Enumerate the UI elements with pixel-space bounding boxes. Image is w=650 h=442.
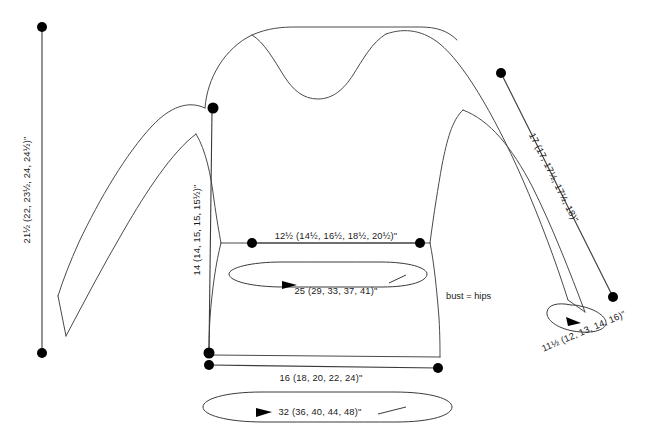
bust-circumference-measurement: 25 (29, 33, 37, 41)" xyxy=(229,262,427,296)
right-sleeve-top-edge xyxy=(386,31,568,300)
sleeve-length-bottom-dot xyxy=(608,292,618,302)
garment-schematic-canvas: 21½ (22, 23½, 24, 24½)" 14 (14, 15, 15, … xyxy=(0,0,650,442)
left-sleeve-cuff-edge xyxy=(58,296,66,336)
hem-width-line xyxy=(209,365,438,368)
hem-circumference-measurement: 32 (36, 40, 44, 48)" xyxy=(203,392,452,422)
hem-width-measurement: 16 (18, 20, 22, 24)" xyxy=(204,360,443,383)
body-length-top-dot xyxy=(208,103,219,114)
body-length-measurement: 14 (14, 15, 15, 15½)" xyxy=(192,103,219,359)
bust-width-label: 12½ (14½, 16½, 18½, 20½)" xyxy=(275,231,398,241)
total-length-bottom-dot xyxy=(37,348,47,358)
hem-width-right-dot xyxy=(433,363,443,373)
bust-equals-hips-note: bust = hips xyxy=(446,291,492,301)
bust-width-measurement: 12½ (14½, 16½, 18½, 20½)" xyxy=(247,231,425,248)
hem-width-label: 16 (18, 20, 22, 24)" xyxy=(280,373,363,383)
total-length-measurement: 21½ (22, 23½, 24, 24½)" xyxy=(22,22,47,358)
garment-outline-group xyxy=(58,27,585,357)
right-armhole-curve xyxy=(430,110,463,243)
hem-circumference-label: 32 (36, 40, 44, 48)" xyxy=(279,407,362,417)
hem-width-left-dot xyxy=(204,360,214,370)
left-sleeve-top-edge xyxy=(58,105,205,296)
total-length-label: 21½ (22, 23½, 24, 24½)" xyxy=(22,137,32,244)
body-length-bottom-dot xyxy=(204,348,215,359)
schematic-diagram: 21½ (22, 23½, 24, 24½)" 14 (14, 15, 15, … xyxy=(0,0,650,442)
body-left-side-seam xyxy=(209,243,221,355)
hem-circumference-arrowhead xyxy=(256,408,272,417)
cuff-circumference-arrowhead xyxy=(566,317,581,326)
bust-width-right-dot xyxy=(415,238,425,248)
body-length-label: 14 (14, 15, 15, 15½)" xyxy=(192,185,202,276)
cuff-circumference-label: 11½ (12, 13, 14, 16)" xyxy=(540,309,627,353)
neckline-scoop xyxy=(252,34,386,99)
bust-circumference-ellipse xyxy=(229,262,427,287)
total-length-top-dot xyxy=(37,22,47,32)
bust-width-left-dot xyxy=(247,238,257,248)
sleeve-length-top-dot xyxy=(496,68,506,78)
body-hem-line xyxy=(209,355,440,357)
body-right-side-seam xyxy=(430,243,440,357)
left-sleeve-under-edge xyxy=(66,134,196,336)
bust-circumference-label: 25 (29, 33, 37, 41)" xyxy=(295,286,378,296)
bust-circumference-leader xyxy=(389,275,406,283)
hem-circumference-leader xyxy=(378,407,406,414)
